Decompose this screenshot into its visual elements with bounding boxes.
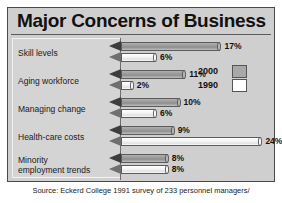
legend-label-2000: 2000 — [198, 66, 218, 76]
bar-pointer-tip — [109, 52, 121, 62]
bar-end-cap — [153, 109, 157, 118]
bar-end-cap — [171, 126, 175, 135]
bar-pointer-tip — [109, 97, 121, 107]
bar-end-cap — [258, 137, 262, 146]
bar-value-label: 10% — [184, 97, 201, 107]
bar-body — [121, 53, 156, 62]
category-label: Health-care costs — [18, 133, 118, 143]
bar-end-cap — [165, 154, 169, 163]
bar-1990: 2% — [121, 81, 133, 90]
bar-end-cap — [182, 70, 186, 79]
chart-row: Skill levels17%6% — [8, 40, 274, 67]
bar-2000: 11% — [121, 70, 185, 79]
bar-value-label: 2% — [137, 80, 149, 90]
legend-item-1990: 1990 — [198, 79, 256, 93]
category-label: Minorityemployment trends — [18, 156, 118, 175]
bar-pointer-tip — [109, 125, 121, 135]
bar-body — [121, 154, 168, 163]
bar-2000: 17% — [121, 42, 220, 51]
bar-body — [121, 109, 156, 118]
legend-label-1990: 1990 — [198, 80, 218, 90]
bar-end-cap — [165, 165, 169, 174]
bar-end-cap — [130, 81, 134, 90]
bar-value-label: 6% — [160, 52, 172, 62]
chart-panel: Major Concerns of Business Skill levels1… — [7, 7, 275, 182]
bar-body — [121, 165, 168, 174]
bar-pointer-tip — [109, 69, 121, 79]
bar-value-label: 8% — [172, 164, 184, 174]
bar-body — [121, 70, 185, 79]
title-divider — [11, 34, 271, 35]
bar-body — [121, 98, 180, 107]
bar-pointer-tip — [109, 41, 121, 51]
chart-row: Health-care costs9%24% — [8, 124, 274, 151]
bar-value-label: 6% — [160, 108, 172, 118]
chart-row: Minorityemployment trends8%8% — [8, 152, 274, 179]
bar-pointer-tip — [109, 164, 121, 174]
chart-row: Managing change10%6% — [8, 96, 274, 123]
bar-end-cap — [217, 42, 221, 51]
bar-body — [121, 137, 261, 146]
bar-end-cap — [153, 53, 157, 62]
bar-body — [121, 126, 174, 135]
bar-1990: 6% — [121, 109, 156, 118]
category-label: Skill levels — [18, 49, 118, 59]
category-label: Managing change — [18, 105, 118, 115]
bar-pointer-tip — [109, 108, 121, 118]
legend-item-2000: 2000 — [198, 65, 256, 79]
bar-1990: 8% — [121, 165, 168, 174]
bar-end-cap — [177, 98, 181, 107]
bar-1990: 6% — [121, 53, 156, 62]
bar-value-label: 8% — [172, 153, 184, 163]
bar-body — [121, 42, 220, 51]
bar-2000: 9% — [121, 126, 174, 135]
source-note: Source: Eckerd College 1991 survey of 23… — [0, 186, 282, 195]
bar-pointer-tip — [109, 136, 121, 146]
bar-1990: 24% — [121, 137, 261, 146]
title-area: Major Concerns of Business — [8, 8, 274, 36]
legend-swatch-2000 — [232, 65, 247, 78]
bar-2000: 8% — [121, 154, 168, 163]
bar-pointer-tip — [109, 80, 121, 90]
bar-2000: 10% — [121, 98, 180, 107]
bar-value-label: 17% — [224, 41, 241, 51]
legend-swatch-1990 — [232, 79, 247, 92]
bar-value-label: 9% — [178, 125, 190, 135]
category-label: Aging workforce — [18, 77, 118, 87]
bar-value-label: 24% — [265, 136, 282, 146]
bar-pointer-tip — [109, 153, 121, 163]
page-title: Major Concerns of Business — [17, 10, 266, 32]
legend: 2000 1990 — [198, 65, 256, 94]
